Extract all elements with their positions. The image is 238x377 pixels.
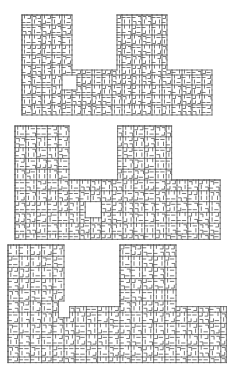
maze-path-group (8, 245, 226, 363)
maze-path (8, 245, 226, 363)
space-filling-curve-3 (0, 0, 238, 377)
